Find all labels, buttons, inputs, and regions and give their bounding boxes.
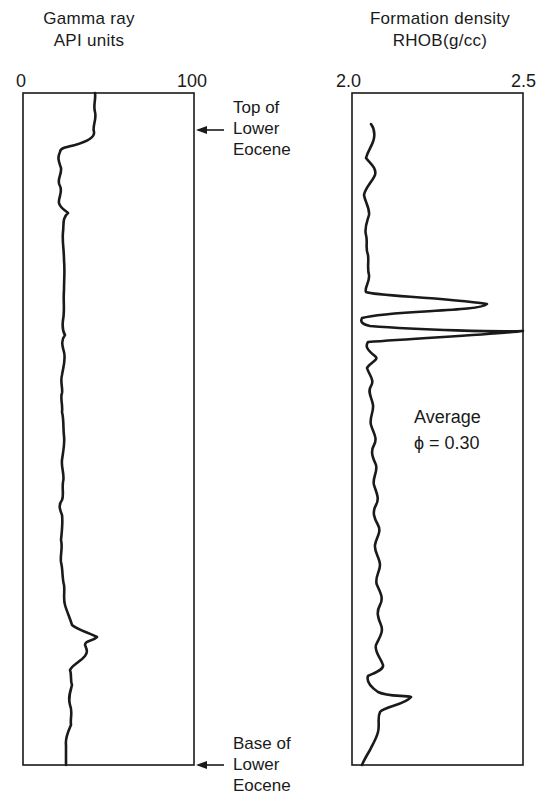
average-label-line-2: ϕ = 0.30 (414, 430, 481, 456)
top-label-line-2: Lower (233, 118, 291, 139)
gamma-track-frame (23, 93, 194, 765)
top-label-line-3: Eocene (233, 139, 291, 160)
base-label-line-3: Eocene (233, 775, 291, 796)
top-lower-eocene-label: Top of Lower Eocene (233, 97, 291, 160)
base-label-line-1: Base of (233, 733, 291, 754)
average-porosity-label: Average ϕ = 0.30 (414, 404, 481, 456)
base-label-line-2: Lower (233, 754, 291, 775)
top-label-line-1: Top of (233, 97, 291, 118)
average-label-line-1: Average (414, 404, 481, 430)
base-lower-eocene-arrow (196, 761, 224, 769)
gamma-ray-curve (58, 93, 97, 765)
top-lower-eocene-arrow (196, 126, 224, 134)
base-lower-eocene-label: Base of Lower Eocene (233, 733, 291, 796)
